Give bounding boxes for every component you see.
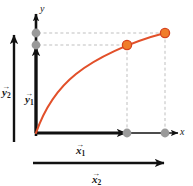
dashed-projection-lines bbox=[38, 33, 165, 132]
vector-production-diagram: y x → y2 → y1 → x1 → x2 bbox=[0, 0, 193, 186]
x1-subscript: 1 bbox=[82, 149, 86, 158]
x-axis-label: x bbox=[180, 127, 184, 137]
y2-axis-marker-dot bbox=[32, 29, 41, 38]
vector-arrow-accent-x2: → bbox=[92, 170, 97, 178]
y2-vector-label: → y2 bbox=[2, 83, 11, 100]
y2-subscript: 2 bbox=[7, 91, 11, 100]
x1-vector-label: → x1 bbox=[76, 141, 85, 158]
vector-arrow-accent-y2: → bbox=[2, 83, 6, 91]
y1-vector-label: → y1 bbox=[25, 90, 34, 107]
x2-subscript: 2 bbox=[98, 178, 102, 186]
x2-vector-label: → x2 bbox=[92, 170, 101, 186]
data-point-1[interactable] bbox=[122, 40, 131, 49]
x1-axis-marker-dot bbox=[123, 129, 132, 138]
y1-axis-marker-dot bbox=[32, 41, 41, 50]
x2-axis-marker-dot bbox=[161, 129, 170, 138]
y1-subscript: 1 bbox=[30, 98, 34, 107]
y-axis-label: y bbox=[40, 4, 44, 14]
data-point-2[interactable] bbox=[160, 28, 169, 37]
production-curve bbox=[36, 33, 165, 133]
vector-arrow-accent-x1: → bbox=[76, 141, 81, 149]
vector-arrow-accent-y1: → bbox=[25, 90, 29, 98]
